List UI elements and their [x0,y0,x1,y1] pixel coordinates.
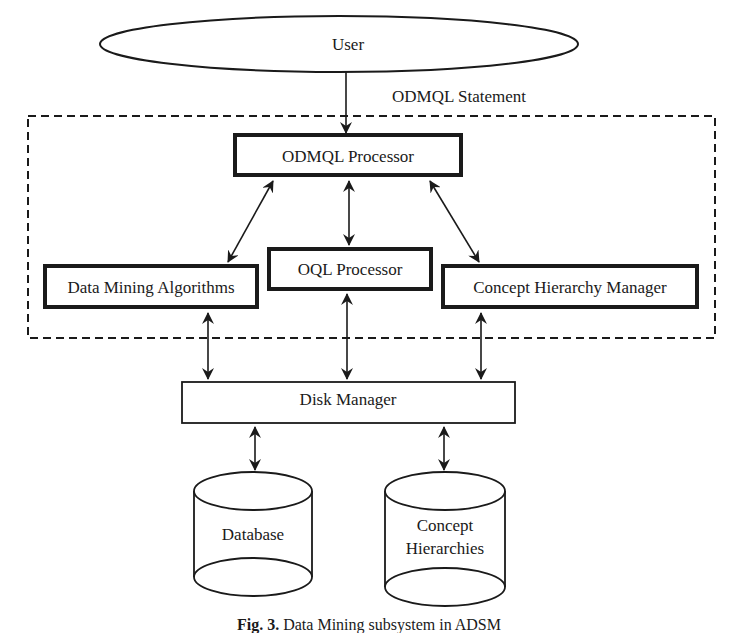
user-label: User [332,36,364,53]
data-mining-algorithms-label: Data Mining Algorithms [67,279,234,296]
database-label: Database [222,526,284,543]
figure-caption-text: Data Mining subsystem in ADSM [283,616,501,633]
arrow-odmql-chm [430,181,479,262]
concept-hierarchies-label-line1: Concept [417,517,474,534]
odmql-statement-label: ODMQL Statement [392,88,526,105]
oql-processor-label: OQL Processor [298,261,403,278]
figure-number: Fig. 3. [237,616,279,633]
disk-manager-label: Disk Manager [300,391,397,408]
odmql-processor-label: ODMQL Processor [282,148,414,165]
arrow-odmql-dma [228,181,273,262]
concept-hierarchies-label-line2: Hierarchies [406,540,484,557]
concept-hierarchy-manager-label: Concept Hierarchy Manager [473,279,667,296]
figure-caption: Fig. 3. Data Mining subsystem in ADSM [0,617,738,633]
